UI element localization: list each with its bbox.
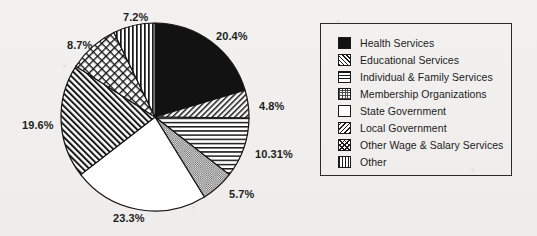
legend-list: Health ServicesEducational ServicesIndiv… xyxy=(338,35,503,169)
legend-item: Other Wage & Salary Services xyxy=(338,137,503,152)
legend-swatch-icon xyxy=(338,139,351,151)
pie-percentage-label: 8.7% xyxy=(67,39,92,51)
legend-item: Individual & Family Services xyxy=(338,69,503,84)
pie-percentage-label: 10.31% xyxy=(255,148,293,160)
legend-swatch-icon xyxy=(338,54,351,66)
legend-swatch-icon xyxy=(338,37,351,49)
legend-item: State Government xyxy=(338,103,503,118)
legend-item-label: Educational Services xyxy=(360,54,459,66)
pie-percentage-label: 4.8% xyxy=(259,100,284,112)
legend-item-label: Individual & Family Services xyxy=(360,71,493,83)
legend-item: Educational Services xyxy=(338,52,503,67)
legend-item-label: Other xyxy=(360,156,387,168)
legend-swatch-icon xyxy=(338,88,351,100)
pie-percentage-label: 20.4% xyxy=(216,30,248,42)
pie-percentage-label: 19.6% xyxy=(22,119,54,131)
pie-percentage-label: 7.2% xyxy=(123,11,148,23)
legend-swatch-icon xyxy=(338,105,351,117)
legend-item: Health Services xyxy=(338,35,503,50)
pie-percentage-label: 5.7% xyxy=(229,188,254,200)
legend-item: Local Government xyxy=(338,120,503,135)
legend-item-label: Other Wage & Salary Services xyxy=(360,139,503,151)
legend-swatch-icon xyxy=(338,156,351,168)
legend-item-label: State Government xyxy=(360,105,446,117)
legend-item: Membership Organizations xyxy=(338,86,503,101)
legend-box: Health ServicesEducational ServicesIndiv… xyxy=(320,23,512,176)
legend-swatch-icon xyxy=(338,71,351,83)
legend-item-label: Health Services xyxy=(360,37,434,49)
legend-item-label: Membership Organizations xyxy=(360,88,487,100)
pie-slices xyxy=(61,23,249,211)
legend-swatch-icon xyxy=(338,122,351,134)
pie-percentage-label: 23.3% xyxy=(113,212,145,224)
legend-item: Other xyxy=(338,154,503,169)
legend-item-label: Local Government xyxy=(360,122,447,134)
